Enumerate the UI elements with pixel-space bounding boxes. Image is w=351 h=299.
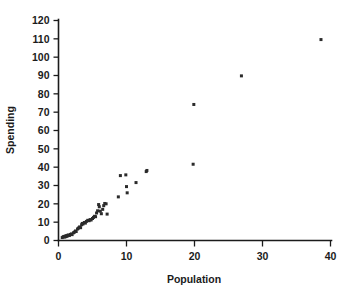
y-axis-title: Spending: [4, 106, 16, 154]
data-point: [126, 191, 129, 194]
y-axis-tick-label: 120: [32, 14, 50, 26]
y-axis-tick-label: 10: [38, 216, 50, 228]
x-axis-title: Population: [167, 273, 221, 285]
data-point: [240, 74, 243, 77]
data-point: [100, 212, 103, 215]
data-point: [96, 209, 99, 212]
y-axis-tick-label: 40: [38, 161, 50, 173]
x-axis-tick-label: 30: [257, 250, 269, 262]
data-point: [125, 185, 128, 188]
scatter-chart-figure: 0102030405060708090100110120 010203040 S…: [0, 0, 351, 299]
data-point: [106, 213, 109, 216]
y-axis-tick-label: 30: [38, 179, 50, 191]
data-point: [94, 215, 97, 218]
x-axis-tick-label: 0: [56, 250, 62, 262]
y-axis-tick-label: 90: [38, 69, 50, 81]
data-point: [192, 163, 195, 166]
chart-canvas: 0102030405060708090100110120 010203040 S…: [0, 0, 351, 299]
data-point: [119, 174, 122, 177]
data-point: [145, 169, 148, 172]
y-axis-tick-label: 50: [38, 143, 50, 155]
y-axis-tick-label: 0: [44, 234, 50, 246]
data-point: [135, 181, 138, 184]
data-point: [101, 208, 104, 211]
chart-background: [0, 0, 351, 299]
y-axis-tick-label: 70: [38, 106, 50, 118]
x-axis-tick-label: 40: [325, 250, 337, 262]
y-axis-tick-label: 60: [38, 124, 50, 136]
x-axis-tick-label: 10: [121, 250, 133, 262]
data-point: [105, 202, 108, 205]
y-axis-tick-label: 20: [38, 198, 50, 210]
data-point: [75, 230, 78, 233]
data-point: [79, 226, 82, 229]
y-axis-tick-label: 110: [33, 33, 50, 45]
y-axis-tick-label: 100: [32, 51, 50, 63]
data-point: [117, 195, 120, 198]
data-point: [98, 205, 101, 208]
y-axis-tick-label: 80: [38, 88, 50, 100]
data-point: [192, 103, 195, 106]
x-axis-tick-label: 20: [189, 250, 201, 262]
data-point: [319, 38, 322, 41]
data-point: [124, 173, 127, 176]
